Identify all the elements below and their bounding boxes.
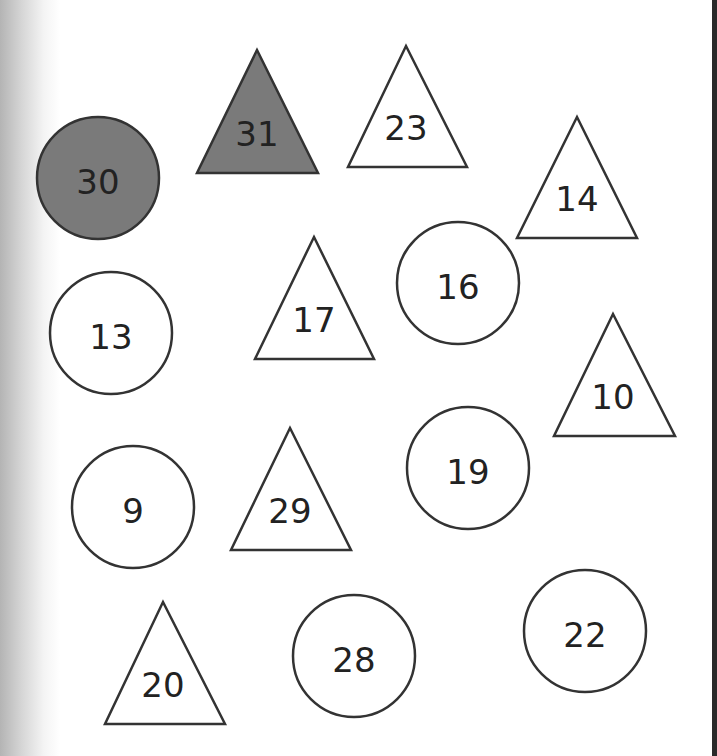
circle-shape-28[interactable]: 28	[293, 595, 415, 717]
triangle-shape-10[interactable]: 10	[554, 314, 675, 436]
shape-number-label: 31	[235, 114, 278, 154]
shape-number-label: 20	[141, 665, 184, 705]
shape-number-label: 22	[563, 615, 606, 655]
triangle-icon	[348, 46, 467, 167]
triangle-shape-23[interactable]: 23	[348, 46, 467, 167]
triangle-icon	[517, 117, 637, 238]
circle-shape-13[interactable]: 13	[50, 272, 172, 394]
circle-shape-16[interactable]: 16	[397, 222, 519, 344]
shape-number-label: 30	[76, 162, 119, 202]
shape-number-label: 23	[384, 108, 427, 148]
triangle-icon	[231, 428, 351, 550]
shape-number-label: 13	[89, 317, 132, 357]
triangle-shape-20[interactable]: 20	[105, 602, 225, 724]
shape-number-label: 29	[268, 491, 311, 531]
circle-shape-22[interactable]: 22	[524, 570, 646, 692]
triangle-shape-14[interactable]: 14	[517, 117, 637, 238]
triangle-icon	[554, 314, 675, 436]
triangle-shape-17[interactable]: 17	[255, 237, 374, 359]
triangle-icon	[255, 237, 374, 359]
circle-shape-19[interactable]: 19	[407, 407, 529, 529]
triangle-shape-29[interactable]: 29	[231, 428, 351, 550]
triangle-icon	[105, 602, 225, 724]
triangle-icon	[197, 50, 318, 173]
shape-number-label: 17	[292, 300, 335, 340]
shape-number-label: 16	[436, 267, 479, 307]
shape-number-label: 9	[122, 491, 144, 531]
circle-shape-9[interactable]: 9	[72, 446, 194, 568]
circle-shape-30[interactable]: 30	[37, 117, 159, 239]
shape-number-label: 10	[591, 377, 634, 417]
shape-number-label: 19	[446, 452, 489, 492]
shape-number-label: 14	[555, 179, 598, 219]
shape-number-label: 28	[332, 640, 375, 680]
triangle-shape-31[interactable]: 31	[197, 50, 318, 173]
shapes-canvas: 303123141617131019929202822	[0, 0, 717, 756]
